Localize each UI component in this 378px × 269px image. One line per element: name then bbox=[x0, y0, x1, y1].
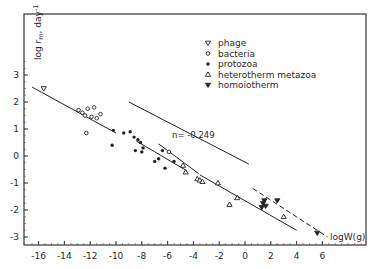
y-tick-label: -3 bbox=[10, 232, 19, 242]
fit-line bbox=[253, 188, 328, 237]
data-point bbox=[77, 108, 81, 112]
data-point bbox=[136, 138, 139, 141]
data-point bbox=[134, 149, 137, 152]
legend-label: homoiotherm bbox=[218, 80, 279, 90]
data-point bbox=[92, 106, 96, 110]
data-point bbox=[140, 150, 143, 153]
data-point bbox=[281, 214, 286, 218]
x-tick-label: -10 bbox=[109, 251, 124, 261]
x-tick-label: -16 bbox=[31, 251, 46, 261]
data-point bbox=[161, 149, 164, 152]
data-point bbox=[172, 160, 175, 163]
y-tick-label: 0 bbox=[13, 151, 19, 161]
data-point bbox=[141, 146, 144, 149]
data-point bbox=[157, 157, 160, 160]
x-tick-label: -14 bbox=[57, 251, 72, 261]
x-tick-label: 0 bbox=[242, 251, 248, 261]
x-tick-label: -8 bbox=[137, 251, 146, 261]
data-points bbox=[41, 87, 320, 236]
x-tick-label: -4 bbox=[189, 251, 198, 261]
data-point bbox=[163, 166, 166, 169]
data-point bbox=[275, 199, 280, 203]
x-tick-label: -6 bbox=[163, 251, 172, 261]
legend-label: bacteria bbox=[218, 49, 255, 59]
fit-line bbox=[32, 87, 116, 133]
data-point bbox=[90, 115, 94, 119]
legend-marker-icon bbox=[206, 52, 210, 56]
x-tick-label: -2 bbox=[215, 251, 224, 261]
slope-annotation: n= -0.249 bbox=[172, 130, 215, 140]
data-point bbox=[235, 195, 240, 199]
y-tick-label: 2 bbox=[13, 97, 19, 107]
data-point bbox=[99, 112, 103, 116]
data-point bbox=[41, 87, 46, 91]
data-point bbox=[227, 202, 232, 206]
fit-line bbox=[137, 141, 187, 171]
data-point bbox=[95, 116, 99, 120]
y-tick-label: -2 bbox=[10, 205, 19, 215]
data-point bbox=[183, 170, 188, 174]
y-axis-label: log rm, day-1 bbox=[32, 5, 45, 60]
legend-marker-icon bbox=[205, 72, 210, 76]
data-point bbox=[122, 131, 125, 134]
data-point bbox=[86, 107, 90, 111]
legend-marker-icon bbox=[205, 83, 210, 87]
data-point bbox=[315, 231, 320, 235]
data-point bbox=[110, 144, 113, 147]
legend-marker-icon bbox=[205, 41, 210, 45]
data-point bbox=[153, 160, 156, 163]
x-axis-label: logW(g) bbox=[330, 232, 365, 242]
legend-label: heterotherm metazoa bbox=[218, 70, 316, 80]
x-tick-label: 6 bbox=[320, 251, 326, 261]
data-point bbox=[132, 135, 135, 138]
data-point bbox=[85, 131, 89, 135]
y-tick-label: 3 bbox=[13, 70, 19, 80]
data-point bbox=[83, 114, 87, 118]
x-tick-label: 2 bbox=[268, 251, 274, 261]
data-point bbox=[215, 180, 220, 184]
data-point bbox=[128, 130, 131, 133]
x-tick-label: 4 bbox=[294, 251, 300, 261]
legend-marker-icon bbox=[206, 62, 209, 65]
fit-line bbox=[200, 175, 297, 230]
x-tick-label: -12 bbox=[83, 251, 98, 261]
axes: -16-14-12-10-8-6-4-202463210-1-2-3 bbox=[10, 62, 361, 262]
y-tick-label: 1 bbox=[13, 124, 19, 134]
data-point bbox=[139, 141, 142, 144]
data-point bbox=[112, 129, 115, 132]
data-point bbox=[167, 150, 171, 154]
y-tick-label: -1 bbox=[10, 178, 19, 188]
chart: -16-14-12-10-8-6-4-202463210-1-2-3 phage… bbox=[0, 0, 378, 269]
legend: phagebacteriaprotozoaheterotherm metazoa… bbox=[205, 38, 316, 90]
legend-label: protozoa bbox=[218, 59, 258, 69]
legend-label: phage bbox=[218, 38, 247, 48]
